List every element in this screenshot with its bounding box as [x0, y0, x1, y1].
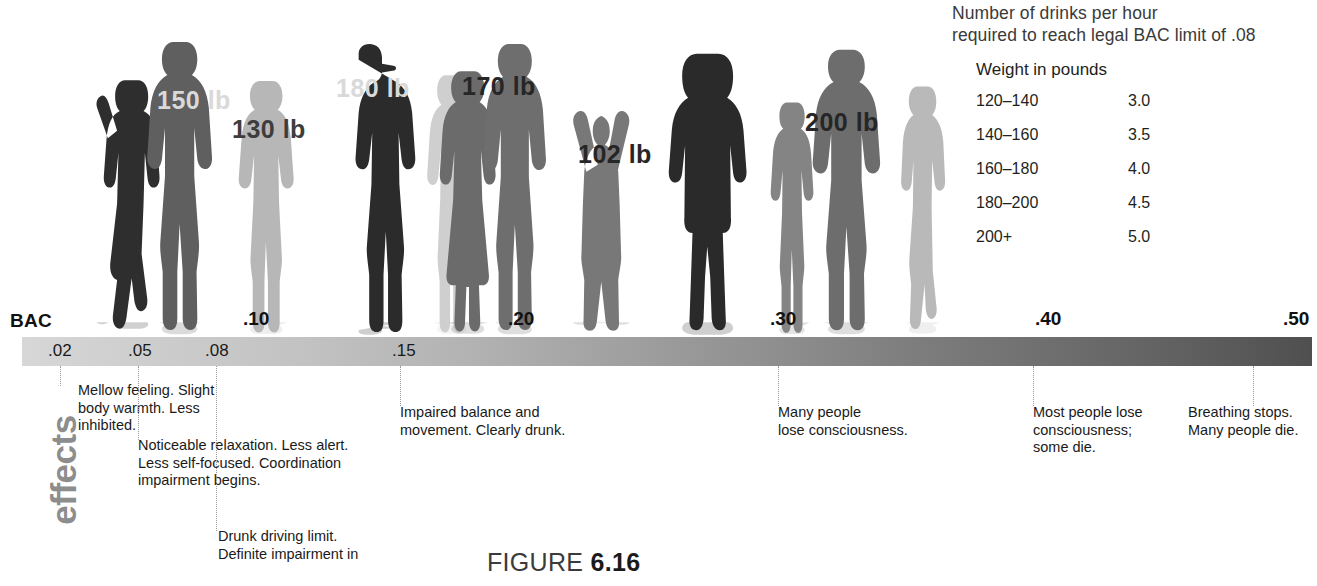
effect-leader-line	[60, 366, 61, 386]
drinks-per-hour-panel: Number of drinks per hour required to re…	[952, 2, 1312, 262]
effect-note-line: Noticeable relaxation. Less alert.	[138, 437, 348, 455]
effect-note-line: Many people die.	[1188, 422, 1298, 440]
effect-leader-line	[1253, 366, 1254, 406]
drinks-title-line-2: required to reach legal BAC limit of .08	[952, 24, 1312, 46]
bac-tick-minor: .02	[48, 341, 72, 361]
effect-note: Impaired balance andmovement. Clearly dr…	[400, 404, 565, 439]
effect-note: Most people loseconsciousness;some die.	[1033, 404, 1143, 457]
bac-tick-major: .30	[770, 308, 796, 330]
drinks-title-line-1: Number of drinks per hour	[952, 2, 1312, 24]
drinks-table-row: 120–1403.0	[976, 92, 1150, 126]
drinks-count-cell: 4.5	[1128, 194, 1150, 228]
weight-range-cell: 140–160	[976, 126, 1128, 160]
person-woman-light	[886, 78, 962, 336]
bac-tick-major: .50	[1283, 308, 1309, 330]
figure-6-16-infographic: Number of drinks per hour required to re…	[0, 0, 1317, 586]
drinks-table-row: 200+5.0	[976, 228, 1150, 262]
weight-in-pounds-header: Weight in pounds	[976, 60, 1312, 80]
effect-leader-line	[1033, 366, 1034, 406]
effect-note-line: inhibited.	[78, 417, 214, 435]
effect-note-line: impairment begins.	[138, 472, 348, 490]
drinks-table-row: 160–1804.0	[976, 160, 1150, 194]
figure-caption-word: FIGURE	[487, 548, 583, 576]
effect-note-line: lose consciousness.	[778, 422, 908, 440]
drinks-count-cell: 3.5	[1128, 126, 1150, 160]
effect-note: Many peoplelose consciousness.	[778, 404, 908, 439]
effect-note-line: movement. Clearly drunk.	[400, 422, 565, 440]
effect-note: Breathing stops.Many people die.	[1188, 404, 1298, 439]
effect-note-line: Most people lose	[1033, 404, 1143, 422]
bac-tick-major: .40	[1035, 308, 1061, 330]
weight-range-cell: 160–180	[976, 160, 1128, 194]
effect-note-line: Impaired balance and	[400, 404, 565, 422]
effect-note-line: Mellow feeling. Slight	[78, 382, 214, 400]
person-man-180	[330, 40, 428, 336]
person-woman-arms-up	[568, 74, 660, 336]
drinks-count-cell: 3.0	[1128, 92, 1150, 126]
bac-tick-major: .20	[508, 308, 534, 330]
effect-note-line: Definite impairment in	[218, 546, 358, 564]
figure-caption-number: 6.16	[591, 548, 641, 576]
person-leaning-man	[135, 36, 235, 336]
drinks-table-row: 140–1603.5	[976, 126, 1150, 160]
effect-leader-line	[216, 366, 217, 531]
effect-note-line: body warmth. Less	[78, 400, 214, 418]
weight-range-cell: 120–140	[976, 92, 1128, 126]
bac-tick-minor: .15	[392, 341, 416, 361]
person-man-170	[472, 38, 568, 336]
silhouette-stage	[0, 0, 1000, 336]
bac-tick-minor: .08	[205, 341, 229, 361]
figure-caption: FIGURE 6.16	[487, 548, 640, 577]
person-woman-130	[225, 74, 315, 336]
effect-note: Drunk driving limit.Definite impairment …	[218, 528, 358, 563]
effect-note-line: Breathing stops.	[1188, 404, 1298, 422]
drinks-table: 120–1403.0140–1603.5160–1804.0180–2004.5…	[976, 92, 1150, 262]
weight-range-cell: 180–200	[976, 194, 1128, 228]
bac-tick-minor: .05	[128, 341, 152, 361]
effect-note: Mellow feeling. Slightbody warmth. Lessi…	[78, 382, 214, 435]
effect-leader-line	[778, 366, 779, 406]
weight-range-cell: 200+	[976, 228, 1128, 262]
bac-axis-label: BAC	[10, 310, 52, 332]
person-man-shorts	[660, 50, 756, 336]
drinks-panel-title: Number of drinks per hour required to re…	[952, 2, 1312, 46]
drinks-count-cell: 4.0	[1128, 160, 1150, 194]
drinks-count-cell: 5.0	[1128, 228, 1150, 262]
effect-leader-line	[138, 366, 139, 440]
drinks-table-row: 180–2004.5	[976, 194, 1150, 228]
bac-tick-major: .10	[243, 308, 269, 330]
effect-note-line: some die.	[1033, 439, 1143, 457]
effect-note-line: consciousness;	[1033, 422, 1143, 440]
effect-note-line: Drunk driving limit.	[218, 528, 358, 546]
effect-note-line: Many people	[778, 404, 908, 422]
effect-note-line: Less self-focused. Coordination	[138, 455, 348, 473]
effect-leader-line	[400, 366, 401, 406]
effect-note: Noticeable relaxation. Less alert.Less s…	[138, 437, 348, 490]
